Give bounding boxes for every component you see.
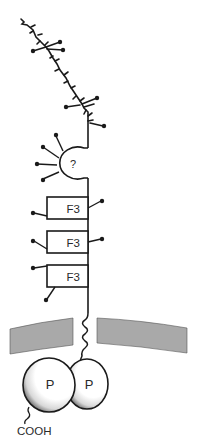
f3-domain-2: F3 — [31, 231, 104, 253]
protein-diagram: ? F3 — [0, 0, 199, 446]
phosphatase-domain-2-label: P — [85, 377, 94, 392]
phosphatase-domain-1: P — [23, 358, 75, 412]
unknown-domain-label: ? — [70, 158, 76, 170]
transmembrane-segment — [80, 313, 88, 361]
membrane-right — [97, 318, 187, 353]
unknown-domain: ? — [35, 133, 88, 182]
membrane-left — [10, 318, 73, 354]
cell-membrane — [10, 318, 187, 354]
f3-domain-3-label: F3 — [67, 271, 80, 283]
phosphatase-domain-1-label: P — [46, 377, 55, 392]
f3-domain-2-label: F3 — [67, 237, 80, 249]
f3-domain-3: F3 — [31, 265, 88, 302]
glycan-chain — [21, 19, 103, 126]
f3-domain-1-label: F3 — [67, 203, 80, 215]
cooh-terminus-label: COOH — [17, 425, 52, 437]
f3-domain-1: F3 — [31, 197, 104, 219]
c-terminal-tail — [25, 407, 30, 424]
